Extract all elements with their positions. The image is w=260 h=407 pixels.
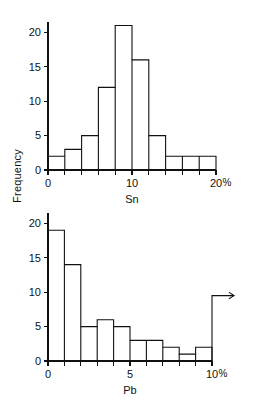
x-tick-label: 10 — [126, 177, 138, 189]
overflow-arrow — [212, 296, 234, 361]
y-tick-label: 0 — [35, 164, 41, 176]
x-tick-label: 0 — [45, 368, 51, 380]
x-axis-unit-label: % — [219, 368, 228, 379]
y-tick-label: 10 — [29, 95, 41, 107]
chart-sn-histogram: 0510152001020%Sn — [0, 0, 260, 203]
x-tick-label: 10 — [206, 368, 218, 380]
y-tick-label: 0 — [35, 355, 41, 367]
x-axis-name: Sn — [125, 193, 138, 203]
chart-pb-histogram: 051015200510%Pb — [0, 203, 260, 407]
y-tick-label: 20 — [29, 217, 41, 229]
x-tick-label: 5 — [127, 368, 133, 380]
y-tick-label: 15 — [29, 61, 41, 73]
x-axis-unit-label: % — [223, 177, 232, 188]
y-tick-label: 5 — [35, 129, 41, 141]
y-tick-label: 5 — [35, 320, 41, 332]
x-axis-name: Pb — [123, 384, 136, 396]
x-tick-label: 20 — [210, 177, 222, 189]
figure-root: Frequency 0510152001020%Sn 051015200510%… — [0, 0, 260, 407]
y-tick-label: 20 — [29, 26, 41, 38]
y-tick-label: 10 — [29, 286, 41, 298]
y-tick-label: 15 — [29, 252, 41, 264]
x-tick-label: 0 — [45, 177, 51, 189]
